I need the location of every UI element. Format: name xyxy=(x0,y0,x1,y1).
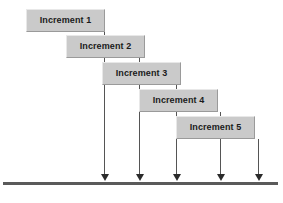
increment-box-5: Increment 5 xyxy=(176,116,255,139)
timeline-baseline xyxy=(3,182,278,185)
increment-box-3: Increment 3 xyxy=(102,62,181,85)
increment-label-5: Increment 5 xyxy=(190,123,242,132)
increment-timeline-diagram: Increment 1 Increment 2 Increment 3 Incr… xyxy=(0,0,283,203)
increment-box-1: Increment 1 xyxy=(26,9,105,32)
increment-arrow-head-5 xyxy=(255,174,263,181)
increment-arrow-head-4 xyxy=(217,174,225,181)
increment-arrow-head-3 xyxy=(173,174,181,181)
increment-box-2: Increment 2 xyxy=(66,35,145,58)
increment-box-4: Increment 4 xyxy=(139,89,218,112)
increment-arrow-head-1 xyxy=(101,174,109,181)
increment-label-3: Increment 3 xyxy=(116,69,168,78)
increment-arrow-head-2 xyxy=(136,174,144,181)
increment-arrow-stem-5 xyxy=(258,139,259,177)
increment-label-2: Increment 2 xyxy=(80,42,132,51)
increment-label-1: Increment 1 xyxy=(40,16,92,25)
increment-label-4: Increment 4 xyxy=(153,96,205,105)
